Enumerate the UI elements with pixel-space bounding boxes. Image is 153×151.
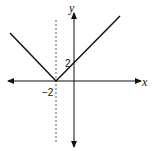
graph-canvas: x y 2 −2 [0, 0, 153, 151]
y-intercept-label: 2 [65, 58, 71, 69]
vertex-x-label: −2 [42, 87, 54, 98]
x-axis-label: x [141, 75, 148, 89]
y-axis-label: y [68, 1, 75, 15]
abs-value-curve [10, 16, 120, 81]
